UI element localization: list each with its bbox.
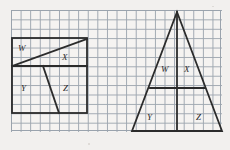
figures-layer [0, 0, 230, 150]
geometry-worksheet-screenshot: W X Y Z W X Y Z [0, 0, 230, 150]
rectangle-region-label-x: X [62, 53, 68, 62]
rectangle-region-label-y: Y [21, 84, 26, 93]
rectangle-region-label-w: W [18, 44, 26, 53]
triangle-region-label-x: X [184, 65, 190, 74]
triangle-region-label-y: Y [147, 113, 152, 122]
rectangle-lower-slant [43, 66, 59, 113]
paper-speck [88, 143, 90, 145]
triangle-region-label-z: Z [196, 113, 201, 122]
rectangle-region-label-z: Z [63, 84, 68, 93]
paper-speck [212, 6, 214, 7]
triangle-figure [132, 12, 222, 131]
triangle-region-label-w: W [161, 65, 169, 74]
